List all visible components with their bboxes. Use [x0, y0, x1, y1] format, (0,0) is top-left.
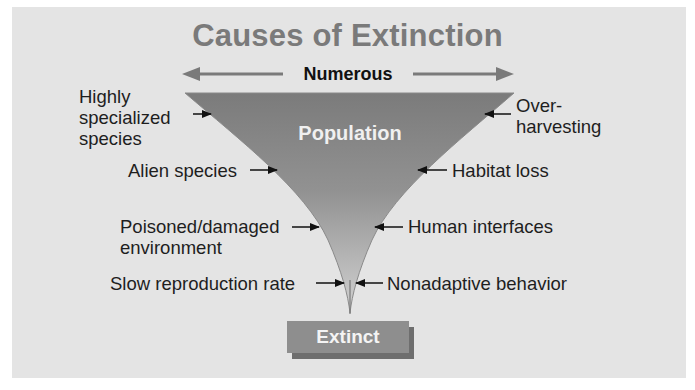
cause-habitat-loss: Habitat loss [452, 160, 549, 181]
cause-nonadaptive-behavior: Nonadaptive behavior [387, 273, 567, 294]
cause-slow-reproduction-rate: Slow reproduction rate [110, 273, 295, 294]
population-label: Population [260, 120, 440, 146]
cause-poisoned-environment: Poisoned/damaged environment [120, 216, 279, 258]
cause-highly-specialized-species: Highly specialized species [79, 86, 171, 149]
cause-alien-species: Alien species [128, 160, 237, 181]
cause-human-interfaces: Human interfaces [408, 216, 553, 237]
cause-over-harvesting: Over- harvesting [516, 95, 601, 137]
numerous-label: Numerous [283, 63, 413, 85]
extinct-box: Extinct [287, 321, 409, 353]
